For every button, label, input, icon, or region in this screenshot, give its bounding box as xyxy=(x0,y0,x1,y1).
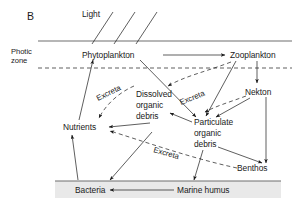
photic-zone-label-line2: zone xyxy=(11,56,27,65)
panel-label: B xyxy=(27,10,34,22)
node-label-particulate-organic-debris-line2: organic xyxy=(194,128,221,138)
node-label-benthos: Benthos xyxy=(237,163,267,173)
flow-label-excreta-upper-left: Excreta xyxy=(95,83,123,103)
node-label-marine-humus: Marine humus xyxy=(177,185,229,195)
node-label-zooplankton: Zooplankton xyxy=(230,50,276,60)
arrow-bacteria-to-nutrients xyxy=(72,135,78,180)
node-label-dissolved-organic-debris-line2: organic xyxy=(136,100,163,110)
arrow-particulate-to-dissolved xyxy=(170,113,192,122)
light-ray-3 xyxy=(136,12,157,44)
flow-label-excreta-upper-right: Excreta xyxy=(178,88,206,106)
arrow-dissolved-to-nutrients xyxy=(109,123,150,127)
flow-label-excreta-lower: Excreta xyxy=(152,145,180,161)
arrow-nekton-to-particulate xyxy=(216,98,250,117)
light-ray-2 xyxy=(114,12,135,44)
photic-zone-label-line1: Photic xyxy=(11,47,32,56)
node-label-light: Light xyxy=(82,9,101,19)
node-label-dissolved-organic-debris-line1: Dissolved xyxy=(136,89,172,99)
arrow-dissolved-to-bacteria xyxy=(110,132,152,180)
node-label-nutrients: Nutrients xyxy=(63,122,96,132)
arrow-zooplankton-excreta-to-dissolved xyxy=(168,62,231,86)
node-label-phytoplankton: Phytoplankton xyxy=(82,50,135,60)
arrow-particulate-to-marine-humus xyxy=(194,150,203,180)
node-label-nekton: Nekton xyxy=(245,87,272,97)
arrow-particulate-to-benthos xyxy=(218,147,262,163)
node-label-bacteria: Bacteria xyxy=(75,185,106,195)
node-label-particulate-organic-debris-line3: debris xyxy=(194,139,217,149)
node-label-dissolved-organic-debris-line3: debris xyxy=(136,111,159,121)
node-label-particulate-organic-debris-line1: Particulate xyxy=(194,117,233,127)
arrow-nutrients-to-phytoplankton xyxy=(79,60,93,120)
marine-ecosystem-diagram: B Light Photic zone Phytoplankton Zoopla… xyxy=(0,0,299,208)
diagram-canvas: B Light Photic zone Phytoplankton Zoopla… xyxy=(0,0,299,208)
